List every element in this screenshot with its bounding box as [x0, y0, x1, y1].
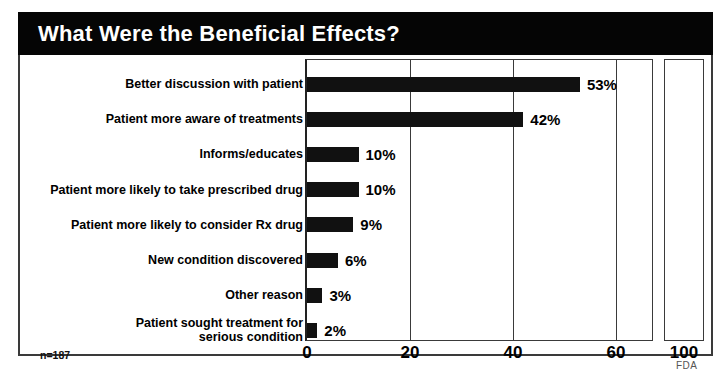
bar-row: Patient more likely to consider Rx drug9… — [20, 210, 711, 240]
bar-value-label: 53% — [587, 76, 617, 93]
bar — [307, 217, 353, 232]
bar-row: New condition discovered6% — [20, 245, 711, 275]
bar-row: Patient sought treatment forserious cond… — [20, 315, 711, 345]
x-tick-40: 40 — [504, 343, 523, 363]
bar-row-label: Patient sought treatment forserious cond… — [33, 316, 303, 344]
bar-value-label: 2% — [324, 322, 346, 339]
bar-row: Better discussion with patient53% — [20, 69, 711, 99]
bar — [307, 77, 580, 92]
bar — [307, 182, 359, 197]
source-label: FDA — [676, 360, 698, 371]
chart-poster: What Were the Beneficial Effects? Better… — [18, 12, 713, 356]
bar — [307, 288, 322, 303]
x-tick-0: 0 — [302, 343, 311, 363]
bar-value-label: 10% — [366, 146, 396, 163]
bar-row: Patient more aware of treatments42% — [20, 104, 711, 134]
x-tick-60: 60 — [607, 343, 626, 363]
plot-area: Better discussion with patient53%Patient… — [20, 55, 711, 356]
bar — [307, 112, 523, 127]
bar — [307, 323, 317, 338]
bar-container: 10% — [307, 139, 396, 169]
bar-value-label: 42% — [530, 111, 560, 128]
sample-size-note: n=187 — [40, 349, 70, 361]
bar — [307, 147, 359, 162]
bar-row-label: Other reason — [33, 288, 303, 302]
bar-row-label: Informs/educates — [33, 147, 303, 161]
x-axis-tick-labels: 0204060100 — [20, 343, 711, 369]
x-tick-20: 20 — [401, 343, 420, 363]
bar-value-label: 10% — [366, 181, 396, 198]
bar-value-label: 6% — [345, 252, 367, 269]
bar-row-label: Patient more aware of treatments — [33, 112, 303, 126]
bar-row-label: Patient more likely to consider Rx drug — [33, 218, 303, 232]
bar-rows: Better discussion with patient53%Patient… — [20, 55, 711, 345]
bar — [307, 253, 338, 268]
bar-value-label: 9% — [360, 216, 382, 233]
bar-row: Informs/educates10% — [20, 139, 711, 169]
bar-row-label: Patient more likely to take prescribed d… — [33, 183, 303, 197]
bar-row: Patient more likely to take prescribed d… — [20, 175, 711, 205]
bar-container: 3% — [307, 280, 351, 310]
bar-row-label: Better discussion with patient — [33, 77, 303, 91]
bar-container: 6% — [307, 245, 367, 275]
bar-row: Other reason3% — [20, 280, 711, 310]
bar-container: 9% — [307, 210, 382, 240]
bar-container: 2% — [307, 315, 346, 345]
bar-value-label: 3% — [329, 287, 351, 304]
bar-container: 42% — [307, 104, 560, 134]
bar-row-label: New condition discovered — [33, 253, 303, 267]
page-title: What Were the Beneficial Effects? — [38, 21, 400, 47]
title-bar: What Were the Beneficial Effects? — [18, 12, 713, 55]
bar-container: 53% — [307, 69, 617, 99]
bar-container: 10% — [307, 175, 396, 205]
